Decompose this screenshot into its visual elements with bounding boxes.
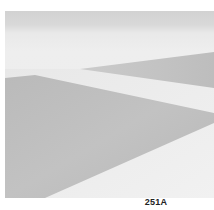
photograph: [5, 11, 214, 198]
shadow-shapes: [5, 11, 214, 198]
figure-caption: 251A: [140, 197, 172, 207]
